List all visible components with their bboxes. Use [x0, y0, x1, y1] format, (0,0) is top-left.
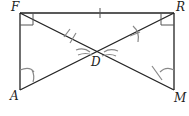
- label-f: F: [11, 1, 19, 13]
- slash-mark-a-side: [152, 66, 162, 80]
- label-a: A: [10, 90, 19, 102]
- angle-mark-m: [160, 68, 174, 72]
- label-m: M: [174, 92, 186, 104]
- label-d: D: [91, 56, 101, 68]
- label-r: R: [176, 1, 185, 13]
- angle-mark-a: [20, 68, 34, 82]
